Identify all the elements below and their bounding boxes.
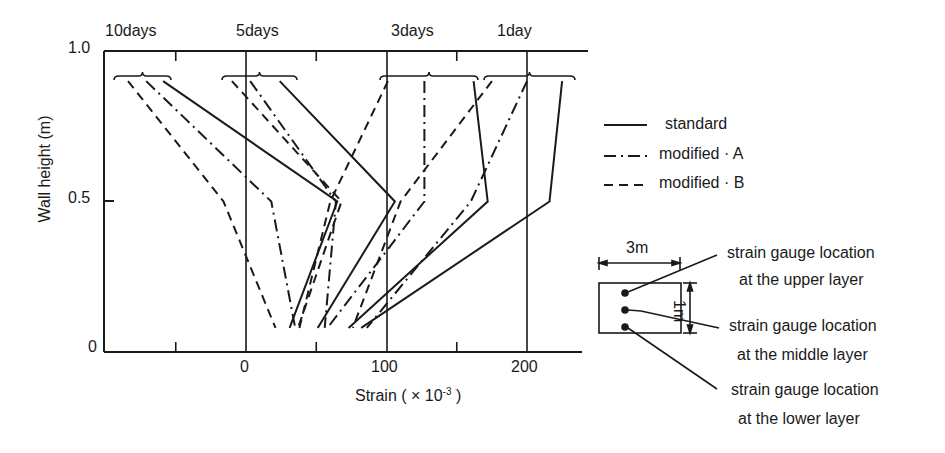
curve-3days-solid (349, 81, 488, 328)
curve-3days-dashed (299, 81, 388, 328)
curve-5days-solid (280, 81, 395, 328)
y-tick-label-1.0: 1.0 (68, 39, 90, 57)
curve-10days-dashed (128, 81, 276, 328)
middle-gauge-label-1: strain gauge location (729, 317, 877, 335)
y-tick-label-0: 0 (88, 338, 97, 356)
x-tick-label-100: 100 (371, 358, 398, 376)
lower-gauge-label-1: strain gauge location (731, 381, 879, 399)
x-axis-title-main: Strain ( × 10 (355, 387, 443, 404)
group-brace-3days (380, 72, 478, 80)
x-axis-title-exponent: -3 (443, 386, 452, 397)
legend-label-standard: standard (665, 115, 727, 133)
group-brace-1day (484, 72, 575, 80)
curve-5days-dashed (232, 81, 342, 328)
curve-10days-dashdot (146, 81, 295, 328)
group-brace-5days (222, 72, 297, 80)
curve-1day-solid (361, 81, 562, 328)
y-axis-title: Wall height (m) (36, 99, 54, 239)
upper-gauge-label-2: at the upper layer (739, 271, 864, 289)
curve-5days-dashdot (250, 81, 336, 328)
x-tick-label-200: 200 (511, 358, 538, 376)
legend-label-modified-b: modified · B (659, 174, 744, 192)
legend-label-modified-a: modified · A (659, 145, 743, 163)
group-label-5days: 5days (236, 22, 279, 40)
group-label-1day: 1day (497, 22, 532, 40)
group-label-10days: 10days (105, 22, 157, 40)
wall-section-diagram (599, 255, 719, 389)
inset-width-label: 3m (626, 239, 648, 257)
x-axis-title: Strain ( × 10-3 ) (355, 386, 461, 405)
group-brace-10days (114, 72, 171, 80)
lower-gauge-label-2: at the lower layer (738, 410, 860, 428)
upper-gauge-label-1: strain gauge location (727, 244, 875, 262)
y-tick-label-0.5: 0.5 (68, 189, 90, 207)
middle-gauge-label-2: at the middle layer (737, 346, 868, 364)
curve-1day-dashdot (367, 81, 527, 328)
x-tick-label-0: 0 (240, 358, 249, 376)
group-label-3days: 3days (391, 22, 434, 40)
x-axis-title-close: ) (456, 387, 461, 404)
curve-3days-dashdot (328, 81, 425, 328)
inset-height-label: 1m (670, 300, 688, 322)
